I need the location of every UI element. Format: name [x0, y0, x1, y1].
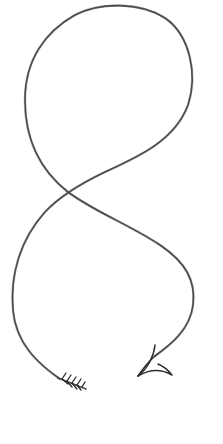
fletching-icon — [58, 373, 86, 390]
loop-arrow-body — [12, 6, 193, 379]
sketch-canvas: Hand-drawn pencil sketch of a looping fi… — [0, 0, 223, 444]
arrowhead-icon — [138, 345, 172, 376]
loop-arrow-drawing — [0, 0, 223, 444]
